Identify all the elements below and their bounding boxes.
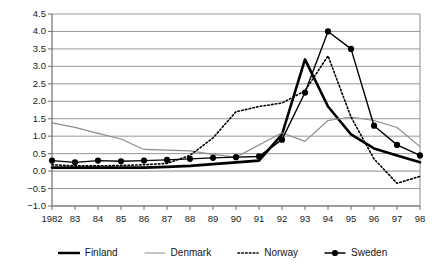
legend-label: Norway [264, 248, 298, 258]
data-point-marker [118, 158, 124, 164]
data-point-marker [348, 46, 354, 52]
series-layer [49, 28, 423, 183]
data-point-marker [256, 153, 262, 159]
line-chart: 4.54.03.53.02.52.01.51.00.50.0−0.5−1.0 1… [0, 0, 445, 272]
data-point-marker [371, 123, 377, 129]
y-axis-tick-label: 0.0 [2, 166, 46, 176]
data-point-marker [95, 158, 101, 164]
y-axis-tick-label: 2.0 [2, 96, 46, 106]
y-axis-tick-label: 2.5 [2, 79, 46, 89]
x-axis-tick-marks [52, 206, 420, 210]
x-axis-tick-label: 98 [404, 214, 436, 224]
data-point-marker [394, 142, 400, 148]
series-line-denmark [52, 117, 420, 157]
chart-legend: FinlandDenmarkNorwaySweden [0, 243, 445, 263]
legend-label: Finland [85, 248, 118, 258]
data-point-marker [187, 156, 193, 162]
data-point-marker [233, 154, 239, 160]
marker-swatch [324, 248, 346, 258]
y-axis-tick-label: 3.0 [2, 61, 46, 71]
y-axis-tick-label: 1.0 [2, 131, 46, 141]
series-line-finland [52, 59, 420, 167]
data-point-marker [164, 157, 170, 163]
legend-label: Sweden [351, 248, 387, 258]
data-point-marker [279, 137, 285, 143]
data-point-marker [302, 89, 308, 95]
plot-area [0, 0, 445, 272]
data-point-marker [72, 159, 78, 165]
data-point-marker [49, 158, 55, 164]
y-axis-tick-label: −1.0 [2, 201, 46, 211]
y-axis-tick-label: 0.5 [2, 149, 46, 159]
dotted-swatch [237, 248, 259, 258]
y-axis-tick-label: 4.5 [2, 9, 46, 19]
legend-item-denmark[interactable]: Denmark [144, 248, 212, 258]
data-point-marker [417, 152, 423, 158]
y-axis-tick-label: 1.5 [2, 114, 46, 124]
legend-item-norway[interactable]: Norway [237, 248, 298, 258]
y-axis-tick-label: −0.5 [2, 184, 46, 194]
data-point-marker [210, 155, 216, 161]
y-axis-tick-label: 3.5 [2, 44, 46, 54]
legend-label: Denmark [171, 248, 212, 258]
y-axis-tick-label: 4.0 [2, 26, 46, 36]
solid-bold-swatch [58, 248, 80, 258]
solid-thin-swatch [144, 248, 166, 258]
legend-item-finland[interactable]: Finland [58, 248, 118, 258]
gridlines [52, 14, 420, 206]
data-point-marker [325, 28, 331, 34]
data-point-marker [141, 158, 147, 164]
legend-item-sweden[interactable]: Sweden [324, 248, 387, 258]
